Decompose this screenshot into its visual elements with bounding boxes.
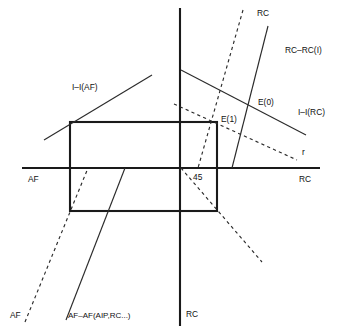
- line-ii-rc: [181, 70, 306, 135]
- label-point-e0: E(0): [258, 97, 274, 107]
- label-line-ii-rc: I–I(RC): [298, 107, 325, 117]
- label-line-af-bottom: AF: [10, 310, 21, 320]
- line-r-dashed: [174, 104, 297, 160]
- line-ii-af: [44, 75, 152, 140]
- label-angle-45: 45: [193, 172, 203, 182]
- label-line-r: r: [302, 147, 305, 157]
- axis-label-rc-bottom: RC: [186, 309, 198, 319]
- equilibrium-box: [70, 122, 217, 211]
- line-af-dashed: [25, 168, 88, 322]
- axis-label-af-left: AF: [28, 174, 39, 184]
- axis-label-rc-right: RC: [299, 174, 311, 184]
- diagram-canvas: AF RC RC 45 I–I(AF) RC RC–RC(I) I–I(RC) …: [0, 0, 337, 334]
- label-group: AF RC RC 45 I–I(AF) RC RC–RC(I) I–I(RC) …: [10, 8, 325, 320]
- line-rc-dashed: [198, 10, 243, 168]
- axes-group: [22, 8, 320, 326]
- label-point-e1: E(1): [221, 114, 237, 124]
- equilibrium-box-rect: [70, 122, 217, 211]
- label-line-rc-rc-i: RC–RC(I): [285, 45, 322, 55]
- label-line-ii-af: I–I(AF): [72, 82, 98, 92]
- diagram-svg: AF RC RC 45 I–I(AF) RC RC–RC(I) I–I(RC) …: [0, 0, 337, 334]
- construction-lines: [25, 10, 306, 322]
- label-line-rc-top: RC: [257, 8, 269, 18]
- label-line-af-af-aip-rc: AF–AF(AIP,RC...): [68, 311, 131, 320]
- line-af-af-aip-rc: [66, 168, 125, 320]
